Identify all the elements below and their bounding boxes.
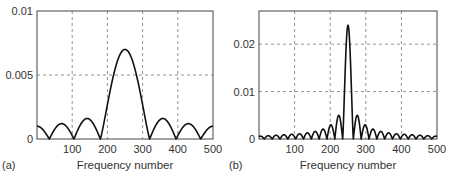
x-tick-label: 500 bbox=[428, 143, 446, 155]
x-axis-label: Frequency number bbox=[300, 159, 397, 171]
data-line bbox=[37, 49, 213, 139]
grid-lines bbox=[259, 11, 437, 139]
panel-label: (b) bbox=[229, 159, 242, 171]
x-tick-label: 200 bbox=[321, 143, 339, 155]
chart-panel-b: 10020030040050000.010.02Frequency number… bbox=[227, 0, 454, 178]
y-tick-label: 0.01 bbox=[234, 86, 255, 98]
y-tick-label: 0.02 bbox=[234, 38, 255, 50]
grid-lines bbox=[37, 11, 213, 139]
line-chart-b: 10020030040050000.010.02Frequency number… bbox=[227, 0, 454, 178]
y-tick-label: 0 bbox=[249, 133, 255, 145]
line-chart-a: 10020030040050000.0050.01Frequency numbe… bbox=[0, 0, 227, 178]
y-tick-label: 0.01 bbox=[12, 5, 33, 17]
x-tick-label: 500 bbox=[204, 143, 222, 155]
y-tick-label: 0 bbox=[27, 133, 33, 145]
x-tick-label: 100 bbox=[63, 143, 81, 155]
panel-label: (a) bbox=[2, 159, 15, 171]
data-line bbox=[259, 25, 437, 139]
y-tick-label: 0.005 bbox=[5, 69, 33, 81]
x-tick-label: 400 bbox=[392, 143, 410, 155]
x-tick-label: 300 bbox=[133, 143, 151, 155]
x-tick-label: 300 bbox=[357, 143, 375, 155]
x-tick-label: 100 bbox=[285, 143, 303, 155]
plot-frame bbox=[259, 11, 437, 139]
chart-panel-a: 10020030040050000.0050.01Frequency numbe… bbox=[0, 0, 227, 178]
x-axis-label: Frequency number bbox=[77, 159, 174, 171]
x-tick-label: 400 bbox=[169, 143, 187, 155]
x-tick-label: 200 bbox=[98, 143, 116, 155]
